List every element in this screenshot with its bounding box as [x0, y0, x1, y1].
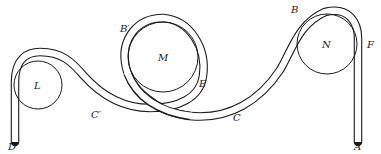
label-M: M [157, 52, 169, 63]
label-C-prime: C′ [91, 109, 102, 120]
label-C: C [233, 112, 241, 123]
label-A: A [353, 141, 361, 152]
label-E: E [198, 78, 207, 89]
label-B: B [290, 4, 298, 15]
label-F: F [366, 39, 375, 50]
label-L: L [33, 80, 41, 91]
belt-pulley-diagram: L M N A B B′ C C′ D E F [0, 0, 381, 154]
label-D: D [7, 141, 16, 152]
label-B-prime: B′ [119, 23, 130, 34]
label-N: N [321, 39, 332, 50]
